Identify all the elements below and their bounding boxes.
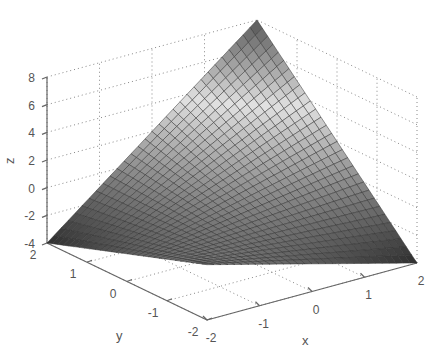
z-tick-label: 8 — [28, 71, 35, 85]
y-tick-label: 1 — [70, 267, 77, 281]
z-tick-label: 4 — [28, 126, 35, 140]
x-tick-label: -2 — [206, 331, 217, 345]
x-tick-label: 1 — [365, 288, 372, 302]
z-tick-label: 0 — [28, 182, 35, 196]
y-tick-label: -1 — [148, 306, 159, 320]
x-tick-label: -1 — [258, 317, 269, 331]
z-tick-label: 2 — [28, 154, 35, 168]
z-tick-label: -2 — [24, 209, 35, 223]
y-tick-label: 2 — [30, 248, 37, 262]
surface-plot: -4-202468-2-1012-2-1012 z y x — [0, 0, 442, 358]
x-tick-label: 2 — [418, 274, 425, 288]
x-tick-label: 0 — [313, 303, 320, 317]
x-axis-label: x — [302, 333, 309, 348]
surface-mesh — [47, 20, 417, 265]
y-tick-label: 0 — [110, 287, 117, 301]
y-tick-label: -2 — [188, 325, 199, 339]
z-tick-label: 6 — [28, 99, 35, 113]
y-axis-label: y — [116, 328, 123, 343]
z-axis-label: z — [2, 158, 17, 165]
